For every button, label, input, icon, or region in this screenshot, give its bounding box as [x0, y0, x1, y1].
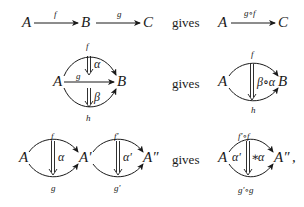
cell-label-beta: β [93, 90, 100, 104]
arrow-label-f: f [54, 9, 58, 19]
arrow-label-h: h [251, 105, 256, 115]
object-A: A [217, 149, 228, 165]
arrow-label-f: f [251, 49, 255, 59]
object-A-prime: A′ [78, 149, 92, 165]
object-A: A [21, 14, 32, 30]
object-A-double-prime: A″ [142, 149, 159, 165]
gives-label: gives [172, 76, 199, 91]
trailing-comma: , [292, 149, 296, 165]
arrow-f-prime-top [93, 139, 143, 152]
double-arrow-icon [85, 56, 93, 75]
cell-label-alpha-prime: α′ [232, 150, 241, 164]
object-A: A [217, 14, 228, 30]
object-C: C [143, 14, 154, 30]
arrow-label-f-prime-compose-f: f′∘f [238, 131, 251, 141]
arrow-label-g: g [76, 71, 81, 81]
arrow-h-bottom [64, 88, 116, 107]
object-B: B [81, 14, 90, 30]
diagram-canvas: B --g--> C gives A --g∘f--> C --> A f B … [0, 0, 304, 207]
cell-label-beta-compose-alpha: β∘α [256, 75, 276, 89]
row-horizontal-composition: A A′ A″ f g α f′ g′ α′ gives A A″ , f′∘f [18, 131, 296, 195]
arrow-label-g: g [51, 183, 56, 193]
gives-label: gives [172, 152, 199, 167]
row-vertical-composition: A B f g h α β gives A B f h [52, 41, 287, 123]
double-arrow-icon [49, 141, 57, 175]
row-morphism-composition: A f B g C gives A g∘f C [21, 8, 289, 30]
cell-label-alpha: α [94, 57, 101, 71]
double-arrow-icon [85, 88, 93, 107]
object-B: B [278, 73, 287, 89]
arrow-label-h: h [86, 113, 91, 123]
arrow-f-top [29, 139, 78, 152]
arrow-label-g-prime: g′ [114, 183, 122, 193]
arrow-label-g-compose-f: g∘f [244, 8, 257, 18]
object-B: B [117, 73, 126, 89]
cell-label-alpha-prime: α′ [123, 150, 132, 164]
object-C: C [278, 14, 289, 30]
arrow-label-g: g [117, 9, 122, 19]
object-A: A [52, 73, 63, 89]
object-A: A [18, 149, 29, 165]
cell-label-alpha: α [258, 150, 265, 164]
double-arrow-icon [114, 141, 122, 175]
arrow-label-g-prime-compose-g: g′∘g [238, 185, 254, 195]
object-A-double-prime: A″ [273, 149, 290, 165]
arrow-label-f: f [86, 41, 90, 51]
gives-label: gives [172, 15, 199, 30]
cell-label-alpha: α [58, 150, 65, 164]
object-A: A [217, 73, 228, 89]
double-arrow-icon [248, 64, 256, 100]
